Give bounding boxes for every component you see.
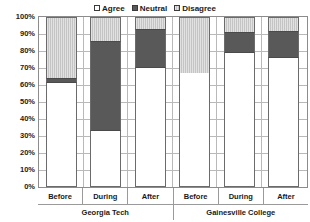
segment-agree[interactable] bbox=[135, 68, 166, 187]
gridline-70 bbox=[39, 68, 307, 69]
bar-georgia-tech-before[interactable] bbox=[46, 17, 77, 187]
y-tick-70: 70% bbox=[20, 64, 35, 72]
segment-agree[interactable] bbox=[90, 131, 121, 187]
legend-entry-agree: Agree bbox=[94, 4, 125, 13]
y-tick-80: 80% bbox=[20, 47, 35, 55]
gridline-20 bbox=[39, 153, 307, 154]
category-divider-2 bbox=[127, 17, 128, 187]
x-label-gt-after: After bbox=[128, 188, 173, 204]
gridline-80 bbox=[39, 51, 307, 52]
segment-neutral[interactable] bbox=[224, 32, 255, 52]
legend-entry-disagree: Disagree bbox=[174, 4, 216, 13]
gridline-10 bbox=[39, 170, 307, 171]
y-tick-90: 90% bbox=[20, 30, 35, 38]
neutral-swatch-icon bbox=[132, 5, 138, 11]
x-group-row: Georgia Tech Gainesville College bbox=[38, 205, 308, 220]
category-divider-5 bbox=[261, 17, 262, 187]
gridline-90 bbox=[39, 34, 307, 35]
chart-legend: Agree Neutral Disagree bbox=[0, 2, 310, 14]
legend-label-agree: Agree bbox=[102, 4, 125, 13]
y-tick-60: 60% bbox=[20, 81, 35, 89]
x-label-gc-during: During bbox=[219, 188, 264, 204]
x-label-gc-after: After bbox=[264, 188, 308, 204]
x-label-gt-before: Before bbox=[38, 188, 83, 204]
gridline-60 bbox=[39, 85, 307, 86]
stacked-bar-chart: 100% 90% 80% 70% 60% 50% 40% 30% 20% 10%… bbox=[0, 16, 310, 222]
segment-neutral[interactable] bbox=[90, 41, 121, 131]
segment-neutral[interactable] bbox=[268, 31, 299, 58]
bar-gainesville-college-before[interactable] bbox=[179, 17, 210, 187]
y-tick-0: 0% bbox=[24, 183, 35, 191]
x-label-gt-during: During bbox=[83, 188, 128, 204]
bar-georgia-tech-after[interactable] bbox=[135, 17, 166, 187]
gridline-50 bbox=[39, 102, 307, 103]
legend-label-neutral: Neutral bbox=[140, 4, 168, 13]
bar-gainesville-college-after[interactable] bbox=[268, 17, 299, 187]
segment-agree[interactable] bbox=[46, 83, 77, 187]
bar-georgia-tech-during[interactable] bbox=[90, 17, 121, 187]
category-divider-1 bbox=[83, 17, 84, 187]
segment-agree[interactable] bbox=[268, 58, 299, 187]
segment-agree[interactable] bbox=[179, 73, 210, 187]
bar-gainesville-college-during[interactable] bbox=[224, 17, 255, 187]
segment-neutral[interactable] bbox=[135, 29, 166, 68]
x-group-georgia-tech: Georgia Tech bbox=[38, 205, 174, 220]
category-divider-3 bbox=[172, 17, 173, 187]
agree-swatch-icon bbox=[94, 5, 100, 11]
segment-disagree[interactable] bbox=[135, 17, 166, 29]
x-group-gainesville-college: Gainesville College bbox=[174, 205, 309, 220]
x-label-gc-before: Before bbox=[174, 188, 219, 204]
x-axis: Before During After Before During After … bbox=[38, 188, 308, 222]
segment-disagree[interactable] bbox=[224, 17, 255, 32]
y-tick-20: 20% bbox=[20, 149, 35, 157]
segment-disagree[interactable] bbox=[179, 17, 210, 73]
legend-label-disagree: Disagree bbox=[182, 4, 216, 13]
y-tick-50: 50% bbox=[20, 98, 35, 106]
x-category-row: Before During After Before During After bbox=[38, 188, 308, 205]
y-tick-100: 100% bbox=[16, 13, 35, 21]
category-divider-4 bbox=[216, 17, 217, 187]
segment-disagree[interactable] bbox=[90, 17, 121, 41]
y-tick-30: 30% bbox=[20, 132, 35, 140]
gridline-30 bbox=[39, 136, 307, 137]
disagree-swatch-icon bbox=[174, 5, 180, 11]
y-tick-10: 10% bbox=[20, 166, 35, 174]
plot-area bbox=[38, 16, 308, 188]
gridline-40 bbox=[39, 119, 307, 120]
y-axis: 100% 90% 80% 70% 60% 50% 40% 30% 20% 10%… bbox=[0, 16, 38, 188]
segment-disagree[interactable] bbox=[46, 17, 77, 78]
legend-entry-neutral: Neutral bbox=[132, 4, 168, 13]
segment-agree[interactable] bbox=[224, 53, 255, 187]
y-tick-40: 40% bbox=[20, 115, 35, 123]
segment-disagree[interactable] bbox=[268, 17, 299, 31]
